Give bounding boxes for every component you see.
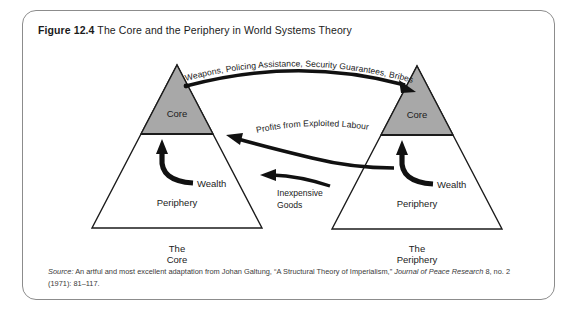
source-note: Source: An artful and most excellent ada…	[48, 266, 528, 289]
source-label: Source:	[48, 267, 73, 276]
left-triangle-group: Core Periphery Wealth The Core	[92, 65, 262, 265]
flow-weapons-tail-dot	[184, 84, 189, 89]
flow-goods-shaft	[272, 175, 330, 186]
left-periphery-label: Periphery	[157, 197, 198, 208]
flow-goods-label-line1: Inexpensive	[277, 188, 323, 198]
flow-goods-label-line2: Goods	[277, 200, 302, 210]
flow-goods-arrow	[260, 169, 330, 186]
right-core-label: Core	[407, 109, 428, 120]
source-text: An artful and most excellent adaptation …	[73, 267, 394, 276]
left-core-label: Core	[167, 108, 188, 119]
source-journal: Journal of Peace Research	[394, 267, 483, 276]
left-caption-line1: The	[169, 243, 185, 254]
right-periphery-label: Periphery	[397, 198, 438, 209]
left-caption-line2: Core	[167, 254, 188, 265]
flow-profits-arrowhead	[226, 133, 243, 145]
right-caption-line2: Periphery	[397, 254, 438, 265]
right-wealth-label: Wealth	[437, 179, 466, 190]
right-caption-line1: The	[409, 243, 425, 254]
flow-goods-arrowhead	[260, 169, 276, 181]
flow-profits-label: Profits from Exploited Labour	[255, 118, 370, 135]
left-wealth-label: Wealth	[197, 178, 226, 189]
